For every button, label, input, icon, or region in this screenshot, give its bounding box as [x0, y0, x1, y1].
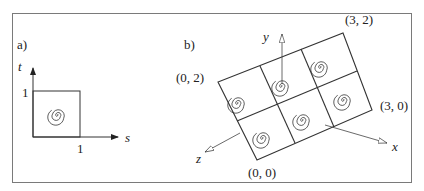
- corner-label-0-0: (0, 0): [248, 166, 276, 179]
- x-axis-arrow: [325, 125, 387, 143]
- spiral-texture-icon: [48, 110, 64, 125]
- panel-a-label: a): [17, 38, 27, 51]
- z-axis-arrow: [205, 133, 240, 152]
- corner-label-0-2: (0, 2): [176, 71, 204, 84]
- t-tick-label: 1: [22, 86, 29, 99]
- s-axis-label: s: [125, 131, 130, 144]
- panel-b-grid: [205, 33, 387, 160]
- corner-label-3-0: (3, 0): [380, 99, 408, 112]
- corner-label-3-2: (3, 2): [345, 13, 373, 26]
- z-axis-label: z: [196, 152, 201, 165]
- s-tick-label: 1: [77, 142, 84, 155]
- x-axis-label: x: [392, 140, 398, 153]
- t-axis-label: t: [18, 60, 22, 73]
- diagram-canvas: [0, 0, 424, 191]
- panel-a-diagram: [33, 68, 118, 137]
- unit-square: [33, 91, 80, 137]
- y-axis-label: y: [263, 30, 269, 43]
- panel-b-label: b): [184, 38, 195, 51]
